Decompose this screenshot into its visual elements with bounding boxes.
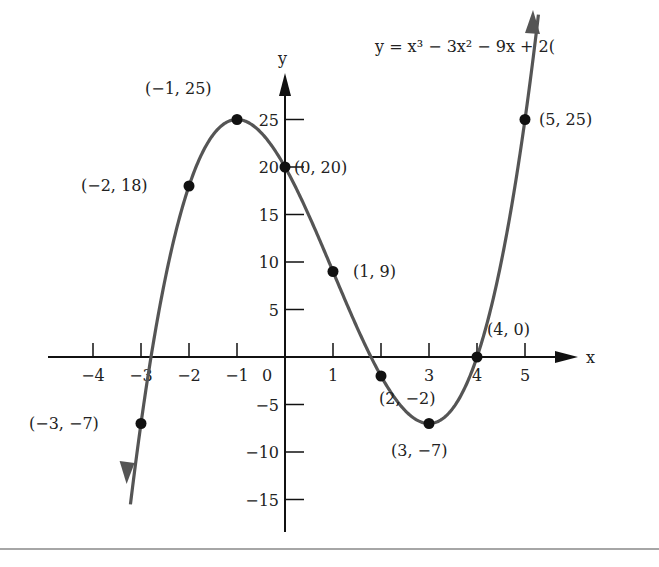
x-tick-label: 0 — [262, 366, 272, 385]
axes: xy−4−3−2−101345252015105−5−10−15 — [48, 49, 595, 532]
data-point — [424, 418, 435, 429]
y-tick-label: 10 — [259, 253, 279, 272]
y-tick-label: 5 — [269, 301, 279, 320]
x-tick-label: −1 — [225, 366, 249, 385]
y-axis-arrow-icon — [279, 73, 291, 96]
point-label: (−3, −7) — [29, 414, 99, 433]
data-point — [232, 114, 243, 125]
data-point — [136, 418, 147, 429]
point-label: (0, 20) — [294, 158, 347, 177]
y-tick-label: 20 — [259, 158, 279, 177]
data-point — [520, 114, 531, 125]
cubic-function-graph: xy−4−3−2−101345252015105−5−10−15 (−3, −7… — [0, 0, 659, 567]
point-label: (3, −7) — [391, 441, 447, 460]
x-tick-label: 3 — [424, 366, 434, 385]
data-point — [328, 266, 339, 277]
point-label: (1, 9) — [353, 262, 396, 281]
data-point — [376, 371, 387, 382]
x-tick-label: −2 — [177, 366, 201, 385]
x-tick-label: 5 — [520, 366, 530, 385]
point-label: (4, 0) — [487, 320, 530, 339]
x-axis-label: x — [586, 348, 595, 367]
equation-label: y = x³ − 3x² − 9x + 2( — [374, 37, 555, 56]
x-tick-label: 1 — [328, 366, 338, 385]
x-tick-label: −4 — [81, 366, 105, 385]
data-point — [184, 181, 195, 192]
y-tick-label: 15 — [259, 206, 279, 225]
point-label: (−1, 25) — [145, 79, 212, 98]
y-tick-label: −15 — [245, 491, 279, 510]
point-labels: (−3, −7)(−2, 18)(−1, 25)(0, 20)(1, 9)(2,… — [29, 79, 592, 460]
y-tick-label: −10 — [245, 443, 279, 462]
point-label: (5, 25) — [539, 110, 592, 129]
data-point — [280, 162, 291, 173]
point-label: (−2, 18) — [81, 176, 148, 195]
y-tick-label: −5 — [255, 396, 279, 415]
y-axis-label: y — [277, 49, 287, 68]
data-point — [472, 352, 483, 363]
x-axis-arrow-icon — [555, 351, 578, 363]
point-label: (2, −2) — [379, 389, 435, 408]
y-tick-label: 25 — [259, 111, 279, 130]
